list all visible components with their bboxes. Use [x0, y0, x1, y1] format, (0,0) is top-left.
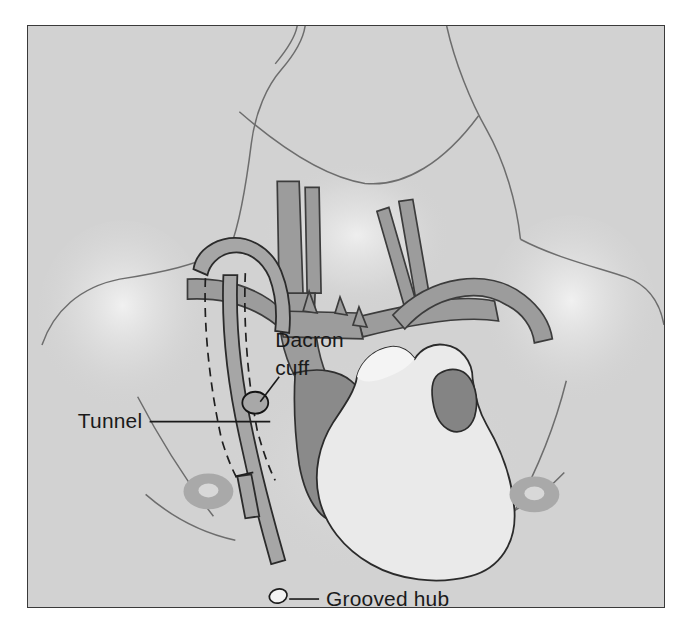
right-shoulder-highlight	[487, 215, 656, 404]
left-nipple	[198, 483, 218, 497]
label-dacron-cuff-line1: Dacron	[275, 328, 344, 351]
left-shoulder-highlight	[38, 220, 207, 409]
illustration-panel: Dacron cuff Tunnel Grooved hub	[27, 25, 665, 608]
figure-root: Dacron cuff Tunnel Grooved hub	[0, 0, 690, 627]
label-dacron-cuff-line2: cuff	[275, 356, 309, 379]
right-nipple	[524, 486, 544, 500]
right-ij-inner-branch	[305, 187, 321, 293]
illustration-svg: Dacron cuff Tunnel Grooved hub	[28, 26, 664, 607]
label-grooved-hub: Grooved hub	[326, 587, 449, 607]
label-tunnel: Tunnel	[78, 409, 142, 432]
